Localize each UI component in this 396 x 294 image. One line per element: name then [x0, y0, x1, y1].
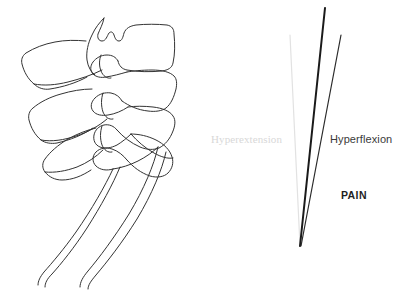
vertebra-c7-body — [127, 134, 173, 177]
transverse-process-outline — [113, 147, 158, 169]
figure-root: Hyperextension Hyperflexion PAIN — [0, 0, 396, 294]
illustration-canvas — [0, 0, 396, 294]
vertebrae-line-drawing — [22, 18, 177, 289]
hyperflexion-label: Hyperflexion — [330, 134, 392, 145]
vertebra-c1-body — [98, 18, 175, 72]
vertebra-c2-body — [22, 40, 87, 89]
spinous-process-lower — [93, 148, 127, 170]
vertebra-c5-body — [117, 106, 175, 149]
vertebra-c4-body — [29, 89, 93, 143]
vertebra-c3-process — [91, 93, 128, 116]
vertebra-c5-process — [94, 125, 131, 148]
facet-joint-upper — [100, 55, 112, 78]
rib-curve-second-inner — [88, 152, 166, 289]
neutral-axis-line — [300, 8, 325, 246]
pain-label: PAIN — [341, 190, 367, 201]
hyperextension-line — [290, 35, 300, 246]
vertebra-c3-body — [122, 70, 177, 111]
hyperextension-label: Hyperextension — [211, 134, 282, 145]
vertebra-c1-process — [91, 55, 127, 77]
rib-curve-inner — [45, 167, 120, 287]
motion-angle-lines — [290, 8, 341, 246]
